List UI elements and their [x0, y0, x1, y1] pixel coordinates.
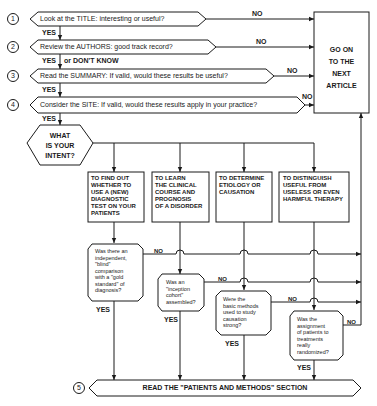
question-1-yes-label: YES — [96, 306, 110, 314]
step-2-text: Review the AUTHORS: good track record? — [40, 43, 173, 51]
step-4-text: Consider the SITE: If valid, would these… — [40, 101, 257, 109]
step-3-number: 3 — [8, 72, 18, 80]
step-1-no-label: NO — [252, 10, 263, 18]
question-2-no-label: NO — [218, 275, 227, 283]
step-5-number: 5 — [74, 384, 84, 392]
step-4-no-label: NO — [302, 93, 313, 101]
intent-option-therapy: TO DISTINGUISH USEFUL FROM USELESS OR EV… — [283, 175, 343, 203]
step-2-number: 2 — [8, 43, 18, 51]
question-etiology: Were the basic methods used to study cau… — [223, 296, 258, 329]
step-1-yes-label: YES — [42, 29, 56, 37]
step-3-text: Read the SUMMARY: If valid, would these … — [40, 72, 228, 80]
intent-question: WHAT IS YOUR INTENT? — [27, 131, 93, 161]
step-1-text: Look at the TITLE: interesting or useful… — [40, 15, 164, 23]
question-4-yes-label: YES — [297, 364, 311, 372]
intent-option-diagnostic: TO FIND OUT WHETHER TO USE A (NEW) DIAGN… — [91, 175, 136, 217]
question-1-no-label: NO — [154, 247, 163, 255]
step-2-yes-label: YES — [42, 57, 56, 65]
exit-box-text: GO ON TO THE NEXT ARTICLE — [314, 44, 369, 92]
question-prognosis: Was an "inception cohort" assembled? — [166, 279, 196, 305]
step-1-number: 1 — [8, 15, 18, 23]
question-3-no-label: NO — [288, 295, 297, 303]
step-4-yes-label: YES — [42, 115, 56, 123]
question-diagnostic: Was there an independent, "blind" compar… — [95, 248, 128, 294]
intent-option-prognosis: TO LEARN THE CLINICAL COURSE AND PROGNOS… — [155, 175, 202, 210]
question-therapy: Was the assignment of patients to treatm… — [297, 316, 329, 355]
question-4-no-label: NO — [347, 318, 356, 326]
step-2-yes-suffix: or DON'T KNOW — [64, 57, 119, 65]
step-4-number: 4 — [8, 101, 18, 109]
step-3-yes-label: YES — [42, 86, 56, 94]
final-step-text: READ THE "PATIENTS AND METHODS" SECTION — [89, 384, 361, 392]
intent-option-etiology: TO DETERMINE ETIOLOGY OR CAUSATION — [219, 175, 264, 196]
question-2-yes-label: YES — [164, 316, 178, 324]
step-2-no-label: NO — [256, 38, 267, 46]
question-3-yes-label: YES — [225, 340, 239, 348]
step-3-no-label: NO — [287, 67, 298, 75]
